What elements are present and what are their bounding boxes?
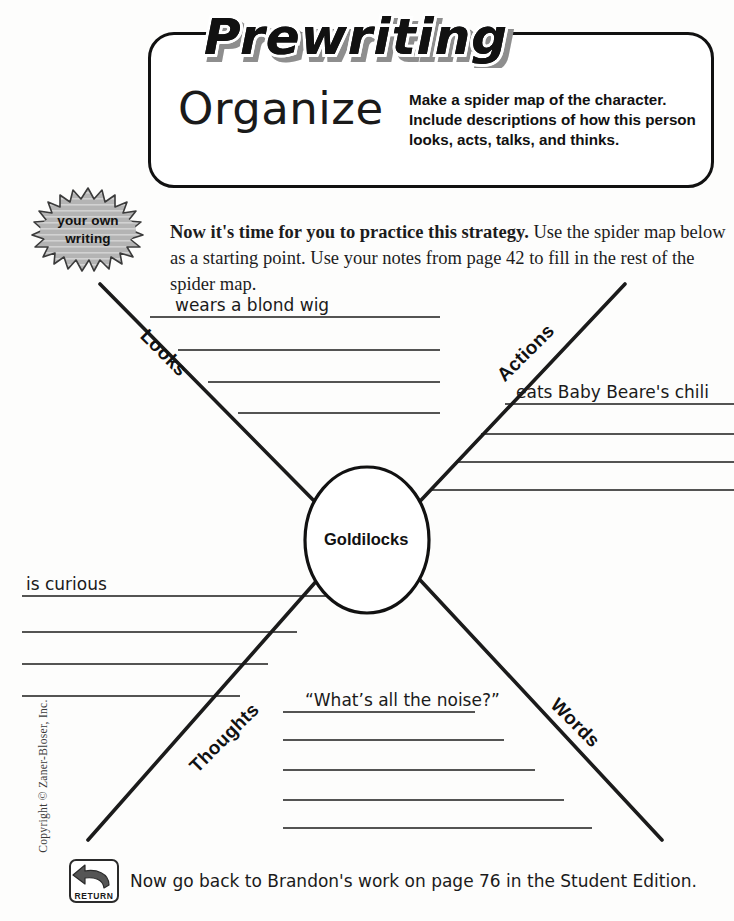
center-label: Goldilocks xyxy=(324,530,408,549)
return-icon[interactable]: RETURN xyxy=(68,858,120,904)
entry-looks: wears a blond wig xyxy=(175,295,329,315)
directive-text: Make a spider map of the character. Incl… xyxy=(409,90,699,151)
intro-lead: Now it's time for you to practice this s… xyxy=(170,222,529,242)
entry-words: “What’s all the noise?” xyxy=(305,690,500,710)
spider-map: Looks Actions Thoughts Words Goldilocks … xyxy=(0,272,734,852)
entry-actions: eats Baby Beare's chili xyxy=(516,382,709,402)
stage-title: Organize xyxy=(178,86,384,131)
worksheet-page: Prewriting Prewriting Prewriting Organiz… xyxy=(0,0,734,921)
svg-text:RETURN: RETURN xyxy=(74,891,113,901)
your-own-writing-badge: your own writing xyxy=(10,186,166,276)
entry-thoughts: is curious xyxy=(26,574,107,594)
footer-return-note: RETURN Now go back to Brandon's work on … xyxy=(68,858,697,904)
footer-text: Now go back to Brandon's work on page 76… xyxy=(130,871,697,891)
prewriting-wordmark: Prewriting Prewriting Prewriting xyxy=(196,6,616,68)
branch-leg-looks xyxy=(100,284,328,515)
copyright-notice: Copyright © Zaner-Bloser, Inc. xyxy=(37,691,49,861)
svg-text:Prewriting: Prewriting xyxy=(204,8,508,66)
